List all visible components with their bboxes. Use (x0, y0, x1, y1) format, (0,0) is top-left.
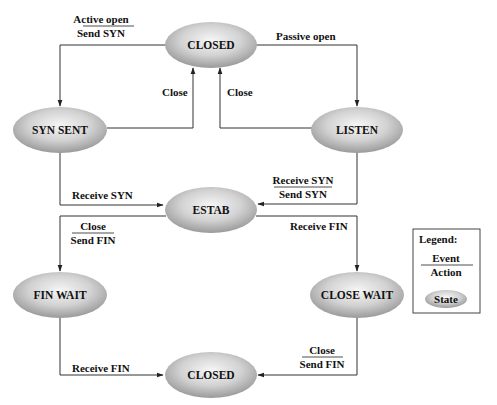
state-label: CLOSED (187, 39, 234, 51)
legend-action: Action (430, 266, 461, 278)
legend-title: Legend: (419, 233, 458, 245)
tcp-state-diagram: Active open Send SYN Passive open Close … (0, 0, 497, 405)
edge-listen-close (220, 68, 312, 128)
state-label: FIN WAIT (33, 289, 86, 301)
label-close-wait-close-action: Send FIN (300, 358, 345, 370)
label-active-open-event: Active open (73, 13, 128, 25)
state-label: SYN SENT (32, 124, 88, 136)
legend-event: Event (432, 252, 460, 264)
label-listen-receive-syn-event: Receive SYN (273, 174, 334, 186)
state-syn-sent: SYN SENT (13, 107, 107, 153)
state-label: ESTAB (193, 204, 230, 216)
label-close-left: Close (162, 86, 188, 98)
state-closed-top: CLOSED (165, 22, 257, 68)
label-syn-sent-receive-syn: Receive SYN (72, 189, 133, 201)
legend-state: State (434, 293, 458, 305)
edge-active-open (60, 45, 166, 106)
state-listen: LISTEN (311, 107, 403, 153)
label-active-open-action: Send SYN (77, 27, 125, 39)
state-estab: ESTAB (165, 187, 257, 233)
state-label: CLOSED (187, 369, 234, 381)
edge-passive-open (256, 45, 357, 106)
label-passive-open: Passive open (276, 30, 336, 42)
label-estab-close-action: Send FIN (71, 234, 116, 246)
label-fin-wait-receive-fin: Receive FIN (72, 362, 130, 374)
label-close-wait-close-event: Close (309, 344, 335, 356)
state-fin-wait: FIN WAIT (13, 272, 107, 318)
label-close-right: Close (227, 86, 253, 98)
state-closed-bottom: CLOSED (165, 352, 257, 398)
label-estab-close-event: Close (80, 220, 106, 232)
state-label: LISTEN (336, 124, 379, 136)
state-label: CLOSE WAIT (321, 289, 394, 301)
label-listen-receive-syn-action: Send SYN (279, 188, 327, 200)
label-estab-receive-fin: Receive FIN (290, 220, 348, 232)
edge-syn-sent-close (107, 68, 193, 128)
state-close-wait: CLOSE WAIT (310, 272, 404, 318)
legend: Legend: Event Action State (413, 229, 480, 313)
